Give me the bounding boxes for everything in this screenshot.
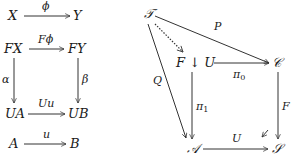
node-UB: UB xyxy=(68,106,89,121)
node-B: B xyxy=(69,136,80,151)
label-Fphi: Fϕ xyxy=(37,33,54,46)
label-P: P xyxy=(213,20,222,33)
label-beta: β xyxy=(81,73,88,86)
arrow-dotted-mediating xyxy=(155,24,183,52)
node-UA: UA xyxy=(5,106,25,121)
node-comma-category: F ↓ U xyxy=(175,55,216,70)
right-diagram: 𝒯 P Q F ↓ U π0 𝒞 π1 F 𝒜 U 𝒮 xyxy=(144,6,290,156)
label-alpha: α xyxy=(2,73,10,86)
node-Y: Y xyxy=(73,8,83,23)
commutative-diagrams: X ϕ Y FX Fϕ FY α β UA Uu UB A u B 𝒯 P xyxy=(0,0,292,156)
node-S: 𝒮 xyxy=(272,141,286,156)
node-C: 𝒞 xyxy=(272,55,285,70)
label-F: F xyxy=(281,100,290,113)
label-Q: Q xyxy=(153,74,162,87)
node-A: A xyxy=(8,136,18,151)
label-pi1: π1 xyxy=(195,100,208,114)
label-U: U xyxy=(232,132,242,145)
natural-transformation-arrow xyxy=(262,130,268,137)
label-pi0: π0 xyxy=(232,68,245,82)
label-u: u xyxy=(43,128,50,141)
node-X: X xyxy=(7,8,18,23)
node-FY: FY xyxy=(67,41,87,56)
node-FX: FX xyxy=(3,41,23,56)
label-Uu: Uu xyxy=(38,97,54,110)
label-phi: ϕ xyxy=(42,0,50,13)
node-A-cal: 𝒜 xyxy=(187,141,203,156)
left-diagram: X ϕ Y FX Fϕ FY α β UA Uu UB A u B xyxy=(2,0,89,151)
node-T: 𝒯 xyxy=(144,6,158,21)
